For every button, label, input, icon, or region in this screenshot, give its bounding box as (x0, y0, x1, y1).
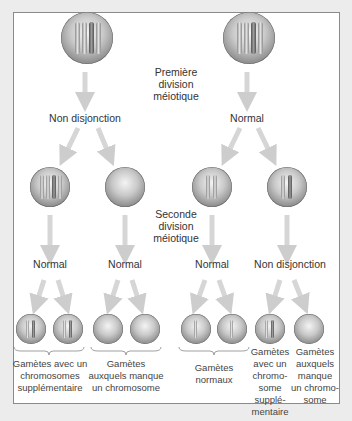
gamete-label-1: Gamètes avec un chromosomes supplémentai… (12, 358, 88, 394)
outcome-mid-3: Normal (187, 258, 237, 270)
gamete-3 (93, 314, 123, 344)
parent-cell-left (61, 12, 113, 64)
gamete-4 (130, 314, 160, 344)
outcome-mid-4: Non disjonction (250, 258, 330, 270)
arrow-icon (110, 280, 118, 305)
brace-group-3 (178, 346, 250, 356)
first-division-label: Première division méiotique (146, 66, 206, 102)
outcome-mid-2: Normal (100, 258, 150, 270)
cell-mid-4 (267, 167, 307, 207)
gamete-label-4: Gamètes avec un chromo- some supplé- men… (244, 346, 296, 418)
arrow-icon (272, 280, 280, 305)
cell-mid-1 (30, 167, 70, 207)
arrow-icon (64, 128, 78, 157)
gamete-label-2: Gamètes auxquels manque un chromosome (88, 358, 164, 394)
gamete-7 (255, 314, 285, 344)
gamete-6 (217, 314, 247, 344)
second-division-label: Seconde division méiotique (146, 208, 206, 244)
arrow-icon (219, 280, 228, 305)
gamete-5 (181, 314, 211, 344)
parent-cell-right (223, 12, 275, 64)
arrow-icon (58, 280, 66, 305)
brace-group-1 (13, 346, 85, 356)
outcome-mid-1: Normal (25, 258, 75, 270)
gamete-1 (16, 314, 46, 344)
arrow-icon (98, 128, 110, 157)
gamete-2 (53, 314, 83, 344)
gamete-8 (294, 314, 324, 344)
arrow-icon (132, 280, 140, 305)
arrow-icon (226, 128, 240, 157)
gamete-label-3: Gamètes normaux (184, 362, 244, 386)
cell-mid-2 (105, 167, 145, 207)
outcome-nondisjunction-first: Non disjonction (40, 112, 130, 124)
arrow-icon (294, 280, 304, 305)
brace-group-2 (90, 346, 162, 356)
outcome-normal-first: Normal (217, 112, 277, 124)
arrow-icon (36, 280, 44, 305)
arrow-icon (258, 128, 272, 157)
cell-mid-3 (192, 167, 232, 207)
arrow-icon (196, 280, 205, 305)
gamete-label-5: Gamètes auxquels manque un chromo- some (290, 346, 340, 406)
